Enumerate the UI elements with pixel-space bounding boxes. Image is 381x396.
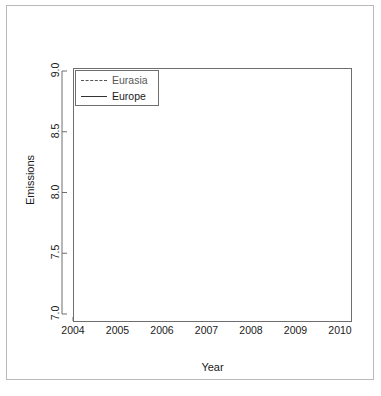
legend-line-sample-solid — [81, 96, 107, 97]
figure-frame: Emissions Year 7.07.58.08.59.0 200420052… — [6, 5, 374, 380]
legend-label-eurasia: Eurasia — [112, 73, 148, 88]
plot-area-box — [73, 68, 352, 322]
chart-screenshot: Emissions Year 7.07.58.08.59.0 200420052… — [0, 0, 381, 396]
legend-line-sample-dashed — [81, 80, 107, 81]
legend-item-eurasia: Eurasia — [76, 73, 158, 89]
chart-legend: Eurasia Europe — [75, 70, 159, 106]
legend-item-europe: Europe — [76, 89, 158, 105]
legend-label-europe: Europe — [112, 89, 146, 104]
